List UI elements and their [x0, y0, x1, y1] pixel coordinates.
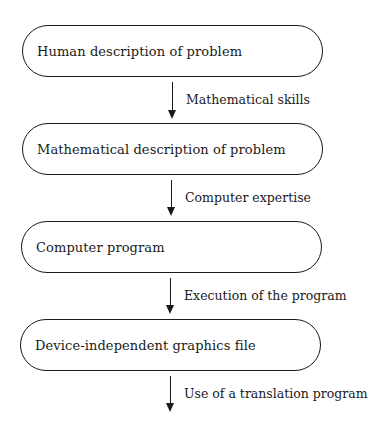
arrow-down-icon: [166, 278, 176, 315]
node-label: Device-independent graphics file: [35, 320, 256, 370]
node-label: Human description of problem: [37, 26, 242, 76]
edge-label: Mathematical skills: [186, 92, 310, 107]
node-label: Computer program: [36, 222, 165, 272]
edge-label: Computer expertise: [185, 190, 311, 205]
arrow-down-icon: [168, 82, 178, 119]
node-human-description: Human description of problem: [22, 25, 323, 77]
node-label: Mathematical description of problem: [37, 124, 286, 174]
arrow-down-icon: [167, 180, 177, 217]
edge-label: Execution of the program: [184, 288, 347, 303]
edge-label: Use of a translation program: [184, 386, 368, 401]
node-mathematical-description: Mathematical description of problem: [22, 123, 323, 175]
arrow-down-icon: [166, 376, 176, 413]
node-computer-program: Computer program: [21, 221, 322, 273]
node-graphics-file: Device-independent graphics file: [20, 319, 321, 371]
